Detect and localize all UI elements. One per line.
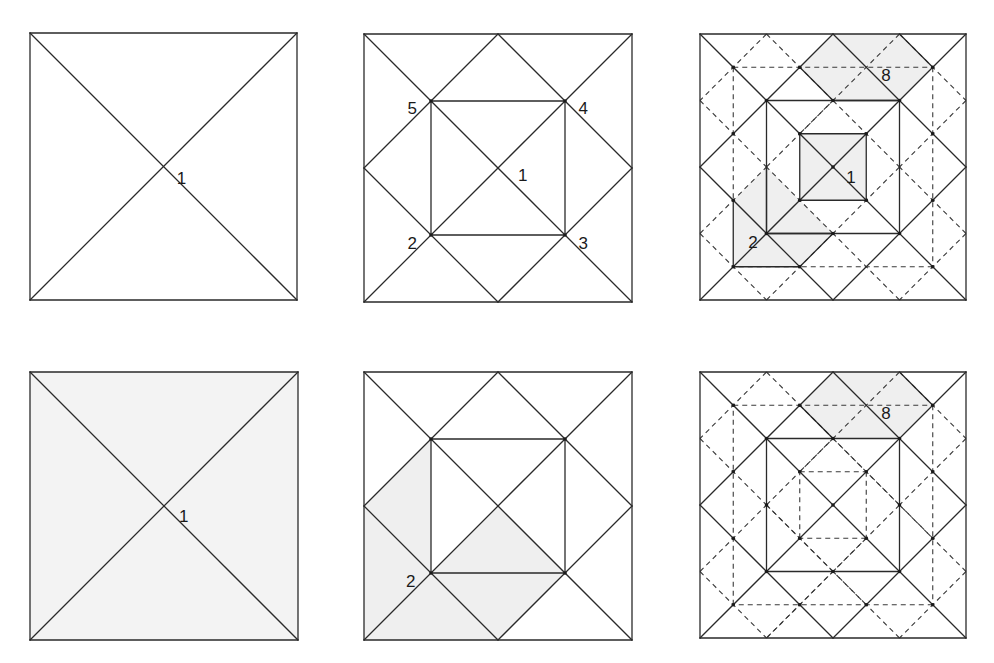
point-label: 4 xyxy=(578,99,587,118)
vertex-dot xyxy=(831,503,835,507)
panel-svg: 54123 xyxy=(364,34,632,302)
vertex-dot xyxy=(429,571,433,575)
vertex-dot xyxy=(864,536,868,540)
vertex-dot xyxy=(931,198,935,202)
point-label: 2 xyxy=(408,234,417,253)
panel-svg: 812 xyxy=(700,34,966,300)
vertex-dot xyxy=(864,603,868,607)
point-label: 8 xyxy=(881,404,890,423)
vertex-dot xyxy=(898,437,902,441)
point-label: 1 xyxy=(846,168,855,187)
vertex-dot xyxy=(931,470,935,474)
vertex-dot xyxy=(731,132,735,136)
vertex-dot xyxy=(798,536,802,540)
diagram-panel-bottom-left: 1 xyxy=(30,372,298,640)
vertex-dot xyxy=(931,65,935,69)
point-label: 1 xyxy=(179,507,188,526)
vertex-dot xyxy=(798,470,802,474)
vertex-dot xyxy=(731,470,735,474)
vertex-dot xyxy=(931,603,935,607)
vertex-dot xyxy=(831,99,835,103)
vertex-dot xyxy=(864,470,868,474)
diagram-panel-bottom-middle: 2 xyxy=(364,372,632,640)
vertex-dot xyxy=(898,570,902,574)
vertex-dot xyxy=(898,503,902,507)
point-label: 1 xyxy=(177,169,186,188)
vertex-dot xyxy=(931,536,935,540)
vertex-dot xyxy=(765,232,769,236)
vertex-dot xyxy=(731,536,735,540)
vertex-dot xyxy=(898,232,902,236)
panel-svg: 2 xyxy=(364,372,632,640)
vertex-dot xyxy=(563,233,567,237)
vertex-dot xyxy=(831,437,835,441)
vertex-dot xyxy=(898,99,902,103)
vertex-dot xyxy=(798,265,802,269)
panel-svg: 1 xyxy=(30,33,297,300)
vertex-dot xyxy=(798,603,802,607)
vertex-dot xyxy=(864,132,868,136)
vertex-dot xyxy=(563,571,567,575)
point-label: 2 xyxy=(748,233,757,252)
vertex-dot xyxy=(429,233,433,237)
diagram-panel-top-left: 1 xyxy=(30,33,297,300)
vertex-dot xyxy=(798,65,802,69)
panel-svg: 8 xyxy=(700,372,966,638)
vertex-dot xyxy=(931,403,935,407)
point-label: 5 xyxy=(408,99,417,118)
diagram-panel-top-middle: 54123 xyxy=(364,34,632,302)
vertex-dot xyxy=(563,437,567,441)
vertex-dot xyxy=(864,198,868,202)
vertex-dot xyxy=(798,198,802,202)
vertex-dot xyxy=(931,132,935,136)
vertex-dot xyxy=(731,265,735,269)
vertex-dot xyxy=(831,165,835,169)
vertex-dot xyxy=(765,99,769,103)
point-label: 2 xyxy=(406,572,415,591)
vertex-dot xyxy=(765,437,769,441)
vertex-dot xyxy=(931,265,935,269)
diagram-panel-bottom-right: 8 xyxy=(700,372,966,638)
vertex-dot xyxy=(731,403,735,407)
diagram-panel-top-right: 812 xyxy=(700,34,966,300)
point-label: 1 xyxy=(518,166,527,185)
vertex-dot xyxy=(831,570,835,574)
vertex-dot xyxy=(831,232,835,236)
vertex-dot xyxy=(731,603,735,607)
point-label: 3 xyxy=(578,234,587,253)
vertex-dot xyxy=(731,65,735,69)
vertex-dot xyxy=(429,437,433,441)
vertex-dot xyxy=(765,570,769,574)
point-label: 8 xyxy=(881,66,890,85)
vertex-dot xyxy=(563,99,567,103)
vertex-dot xyxy=(731,198,735,202)
vertex-dot xyxy=(429,99,433,103)
vertex-dot xyxy=(798,403,802,407)
vertex-dot xyxy=(765,503,769,507)
panel-svg: 1 xyxy=(30,372,298,640)
vertex-dot xyxy=(798,132,802,136)
